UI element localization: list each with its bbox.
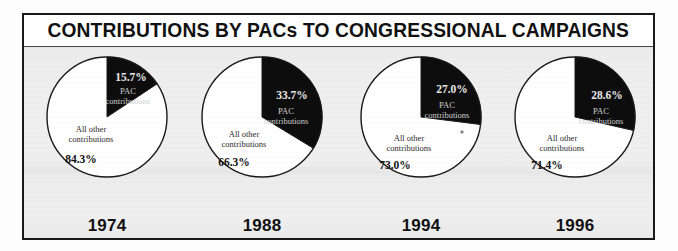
year-label-1996: 1996 bbox=[500, 216, 650, 236]
other-name-line1: All other bbox=[76, 124, 107, 134]
other-name-line1: All other bbox=[547, 133, 578, 143]
pie-svg-1988: 33.7% PAC contributions All other contri… bbox=[198, 53, 326, 181]
other-percent-label: 84.3% bbox=[65, 153, 97, 165]
other-name-line1: All other bbox=[394, 133, 425, 143]
scanned-page: CONTRIBUTIONS BY PACs TO CONGRESSIONAL C… bbox=[0, 0, 678, 251]
year-label-1988: 1988 bbox=[187, 216, 337, 236]
title-band: CONTRIBUTIONS BY PACs TO CONGRESSIONAL C… bbox=[24, 15, 653, 47]
pac-percent-label: 15.7% bbox=[115, 71, 147, 83]
pie-svg-1974: 15.7% PAC contributions All other contri… bbox=[43, 53, 171, 181]
pie-chart-1974: 15.7% PAC contributions All other contri… bbox=[32, 47, 182, 240]
other-percent-label: 73.0% bbox=[379, 159, 411, 171]
figure-frame: CONTRIBUTIONS BY PACs TO CONGRESSIONAL C… bbox=[22, 13, 655, 240]
pac-name-line1: PAC bbox=[593, 106, 609, 116]
year-label-1974: 1974 bbox=[32, 216, 182, 236]
pac-percent-label: 28.6% bbox=[591, 89, 623, 101]
pac-name-line2: contributions bbox=[264, 116, 309, 126]
pac-name-line2: contributions bbox=[579, 116, 624, 126]
pie-svg-1996: 28.6% PAC contributions All other contri… bbox=[511, 53, 639, 181]
pie-chart-1988: 33.7% PAC contributions All other contri… bbox=[187, 47, 337, 240]
page-title: CONTRIBUTIONS BY PACs TO CONGRESSIONAL C… bbox=[48, 19, 630, 42]
other-name-line2: contributions bbox=[69, 134, 114, 144]
pac-name-line1: PAC bbox=[278, 106, 294, 116]
pac-name-line2: contributions bbox=[425, 110, 470, 120]
pac-percent-label: 33.7% bbox=[276, 89, 308, 101]
other-percent-label: 66.3% bbox=[218, 156, 250, 168]
other-name-line1: All other bbox=[229, 129, 260, 139]
other-percent-label: 71.4% bbox=[531, 159, 563, 171]
year-label-1994: 1994 bbox=[346, 216, 496, 236]
pac-name-line2: contributions bbox=[106, 96, 151, 106]
pie-chart-1994: 27.0% PAC contributions All other contri… bbox=[346, 47, 496, 240]
other-name-line2: contributions bbox=[387, 143, 432, 153]
pac-name-line1: PAC bbox=[439, 100, 455, 110]
pie-chart-1996: 28.6% PAC contributions All other contri… bbox=[500, 47, 650, 240]
pie-svg-1994: 27.0% PAC contributions All other contri… bbox=[357, 53, 485, 181]
other-name-line2: contributions bbox=[222, 139, 267, 149]
other-name-line2: contributions bbox=[540, 143, 585, 153]
pac-percent-label: 27.0% bbox=[436, 83, 468, 95]
scan-speck bbox=[460, 130, 463, 133]
pie-chart-row: 15.7% PAC contributions All other contri… bbox=[24, 47, 653, 240]
pac-name-line1: PAC bbox=[120, 86, 136, 96]
